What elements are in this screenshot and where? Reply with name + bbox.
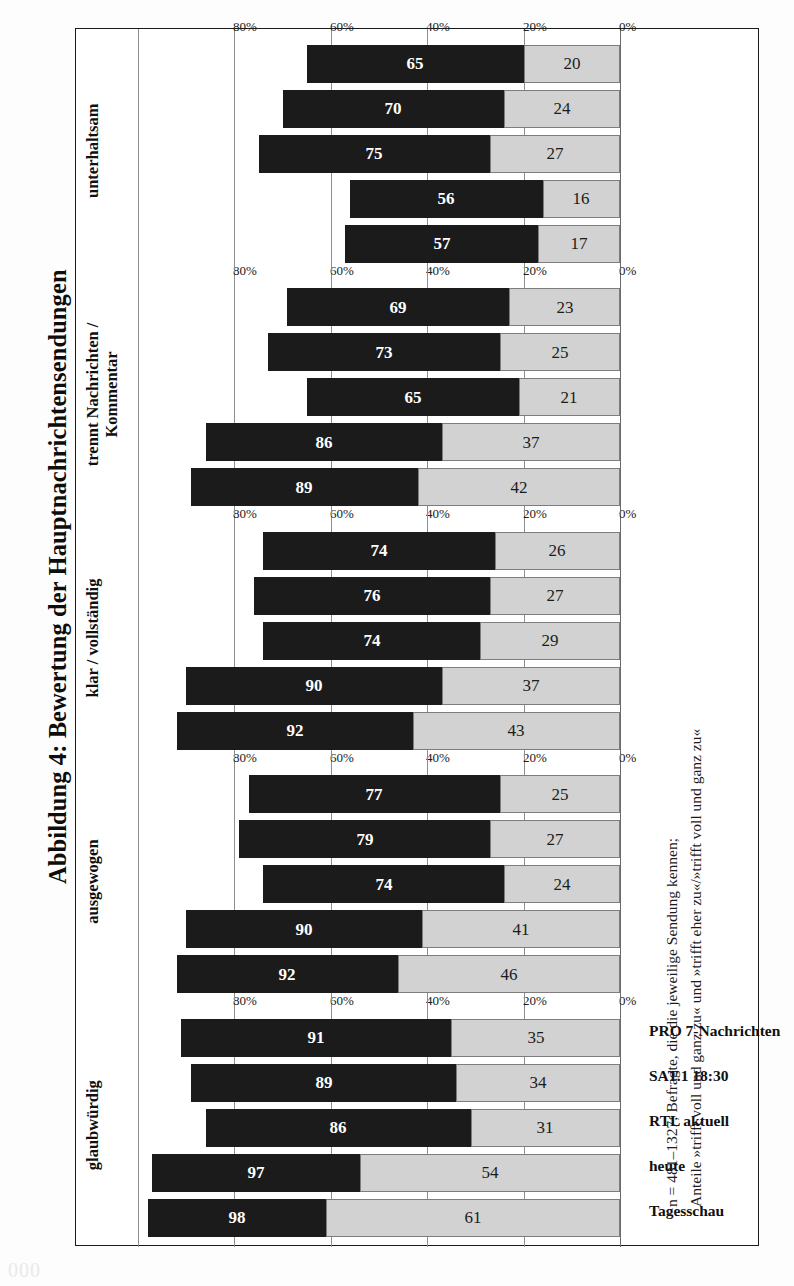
bar-segment-light: 17 <box>538 225 620 263</box>
bar-value-dark: 74 <box>371 541 388 561</box>
bar-segment-dark: 74 <box>263 622 480 660</box>
bar-segment-dark: 79 <box>239 820 490 858</box>
gridline-0 <box>620 29 621 273</box>
bar-segment-dark: 65 <box>307 45 524 83</box>
axis-tick-20%: 20% <box>523 19 547 35</box>
bar-column: 7426 <box>263 532 620 570</box>
bar-column: 9135 <box>181 1019 620 1057</box>
gridline-100 <box>138 1003 139 1247</box>
bar-segment-dark: 76 <box>254 577 490 615</box>
bar-column: 7024 <box>283 90 620 128</box>
bar-segment-dark: 57 <box>345 225 538 263</box>
criterion-label: klar / vollständig <box>84 516 103 760</box>
bar-value-dark: 75 <box>366 144 383 164</box>
axis-tick-0%: 0% <box>619 19 636 35</box>
rotated-chart-area: glaubwürdig986197548631893491350%20%40%6… <box>76 29 760 1247</box>
figure-page: Abbildung 4: Bewertung der Hauptnachrich… <box>0 0 794 1286</box>
bar-segment-dark: 69 <box>287 288 509 326</box>
bar-segment-light: 24 <box>504 90 620 128</box>
gridline-100 <box>138 273 139 517</box>
bar-value-dark: 98 <box>228 1208 245 1228</box>
bar-segment-light: 25 <box>500 333 621 371</box>
bar-segment-light: 37 <box>442 667 620 705</box>
bar-value-light: 20 <box>563 54 580 74</box>
bar-segment-dark: 74 <box>263 532 494 570</box>
bar-segment-light: 35 <box>451 1019 620 1057</box>
bar-value-light: 27 <box>546 586 563 606</box>
bar-value-light: 54 <box>481 1163 498 1183</box>
value-axis: 0%20%40%60%80% <box>138 1 620 31</box>
bar-segment-light: 34 <box>456 1064 620 1102</box>
bar-column: 5616 <box>350 180 620 218</box>
panel-1: glaubwürdig986197548631893491350%20%40%6… <box>76 1003 760 1247</box>
bar-value-dark: 90 <box>305 676 322 696</box>
bar-value-dark: 74 <box>375 874 392 894</box>
bar-column: 8942 <box>191 468 620 506</box>
bar-value-light: 43 <box>508 721 525 741</box>
plot-area: 98619754863189349135 <box>138 1003 620 1247</box>
bar-value-dark: 73 <box>375 342 392 362</box>
bar-segment-light: 27 <box>490 577 620 615</box>
panel-5: unterhaltsam571756167527702465200%20%40%… <box>76 29 760 273</box>
bar-segment-light: 21 <box>519 378 620 416</box>
bar-segment-light: 27 <box>490 135 620 173</box>
bar-value-dark: 65 <box>407 54 424 74</box>
bar-column: 9037 <box>186 667 620 705</box>
chart-frame: glaubwürdig986197548631893491350%20%40%6… <box>75 28 759 1246</box>
bar-value-dark: 89 <box>296 477 313 497</box>
bar-segment-dark: 86 <box>206 423 442 461</box>
bar-value-light: 41 <box>513 919 530 939</box>
bar-value-light: 24 <box>554 99 571 119</box>
gridline-100 <box>138 29 139 273</box>
bar-segment-dark: 75 <box>259 135 490 173</box>
bar-value-light: 25 <box>551 342 568 362</box>
axis-tick-60%: 60% <box>330 19 354 35</box>
bar-segment-dark: 92 <box>177 955 399 993</box>
bar-column: 8631 <box>205 1109 620 1147</box>
panel-3: klar / vollständig924390377429762774260%… <box>76 516 760 760</box>
bar-value-dark: 65 <box>404 387 421 407</box>
bar-segment-light: 41 <box>422 910 620 948</box>
bar-segment-dark: 77 <box>249 775 500 813</box>
bar-segment-dark: 86 <box>206 1109 471 1147</box>
bar-value-light: 17 <box>571 234 588 254</box>
bar-segment-light: 29 <box>480 622 620 660</box>
bar-column: 9243 <box>177 712 620 750</box>
bar-value-light: 23 <box>556 297 573 317</box>
bar-column: 9754 <box>152 1154 620 1192</box>
bar-value-dark: 92 <box>279 964 296 984</box>
footnote-line-2: Anteile »trifft voll und ganz zu« und »t… <box>684 567 708 1207</box>
gridline-0 <box>620 516 621 760</box>
bar-value-dark: 91 <box>308 1028 325 1048</box>
bar-value-dark: 89 <box>315 1073 332 1093</box>
gridline-80 <box>234 29 235 273</box>
bar-segment-light: 43 <box>413 712 620 750</box>
bar-segment-dark: 92 <box>177 712 413 750</box>
bar-column: 6521 <box>307 378 620 416</box>
bar-column: 6520 <box>307 45 620 83</box>
criterion-label-line: klar / vollständig <box>84 516 103 760</box>
bar-value-dark: 69 <box>390 297 407 317</box>
bar-segment-dark: 74 <box>263 865 504 903</box>
bar-value-light: 61 <box>464 1208 481 1228</box>
plot-area: 92439037742976277426 <box>138 516 620 760</box>
bar-segment-dark: 56 <box>350 180 543 218</box>
bar-value-dark: 90 <box>296 919 313 939</box>
bar-segment-dark: 98 <box>148 1199 326 1237</box>
gridline-0 <box>620 1003 621 1247</box>
footnote: n = 481–1327; Befragte, die die jeweilig… <box>660 567 708 1207</box>
bar-segment-dark: 90 <box>186 667 441 705</box>
bar-value-light: 27 <box>546 829 563 849</box>
bar-value-light: 27 <box>546 144 563 164</box>
gridline-0 <box>620 760 621 1004</box>
bar-value-light: 31 <box>537 1118 554 1138</box>
criterion-label-line: ausgewogen <box>84 760 103 1004</box>
bar-column: 9246 <box>177 955 620 993</box>
bar-value-light: 42 <box>510 477 527 497</box>
bar-value-dark: 97 <box>248 1163 265 1183</box>
bar-segment-light: 25 <box>500 775 621 813</box>
bar-value-light: 35 <box>527 1028 544 1048</box>
footnote-line-1: n = 481–1327; Befragte, die die jeweilig… <box>660 567 684 1207</box>
bar-value-light: 46 <box>501 964 518 984</box>
bar-value-light: 34 <box>530 1073 547 1093</box>
